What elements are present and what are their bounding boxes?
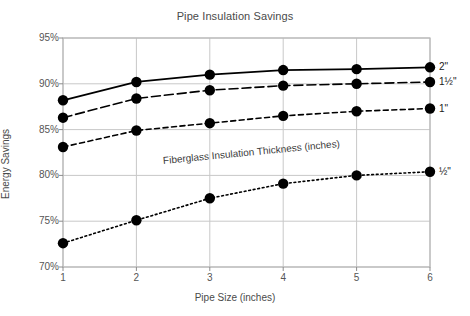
data-point-marker — [205, 193, 215, 203]
data-point-marker — [278, 178, 288, 188]
y-tick-label: 85% — [33, 125, 59, 135]
x-tick-label: 5 — [347, 272, 367, 283]
data-point-marker — [425, 167, 435, 177]
series-line — [63, 172, 430, 243]
data-point-marker — [58, 112, 68, 122]
y-tick-label: 90% — [33, 79, 59, 89]
series-label-2: 1½" — [439, 76, 456, 87]
x-tick-label: 2 — [126, 272, 146, 283]
data-point-marker — [425, 62, 435, 72]
series-label-3: 1" — [439, 103, 448, 114]
data-point-marker — [58, 238, 68, 248]
data-point-marker — [425, 77, 435, 87]
data-point-marker — [58, 95, 68, 105]
series-line — [63, 109, 430, 147]
data-point-marker — [351, 64, 361, 74]
y-tick-label: 80% — [33, 170, 59, 180]
data-point-marker — [205, 118, 215, 128]
data-point-marker — [351, 170, 361, 180]
data-point-marker — [131, 215, 141, 225]
data-point-marker — [278, 65, 288, 75]
data-point-marker — [58, 142, 68, 152]
series-label-1: 2" — [439, 61, 448, 72]
data-point-marker — [425, 103, 435, 113]
x-tick-label: 6 — [420, 272, 440, 283]
data-point-marker — [351, 106, 361, 116]
data-point-marker — [351, 79, 361, 89]
data-point-marker — [205, 85, 215, 95]
data-point-marker — [131, 125, 141, 135]
chart-container: Pipe Insulation Savings Energy Savings P… — [0, 0, 470, 316]
y-tick-label: 95% — [33, 33, 59, 43]
data-point-marker — [205, 69, 215, 79]
data-point-marker — [278, 111, 288, 121]
series-label-4: ½" — [439, 166, 451, 177]
x-tick-label: 3 — [200, 272, 220, 283]
data-point-marker — [131, 77, 141, 87]
x-tick-label: 1 — [53, 272, 73, 283]
data-point-marker — [131, 93, 141, 103]
x-tick-label: 4 — [273, 272, 293, 283]
y-tick-label: 70% — [33, 262, 59, 272]
y-tick-label: 75% — [33, 216, 59, 226]
data-point-marker — [278, 80, 288, 90]
